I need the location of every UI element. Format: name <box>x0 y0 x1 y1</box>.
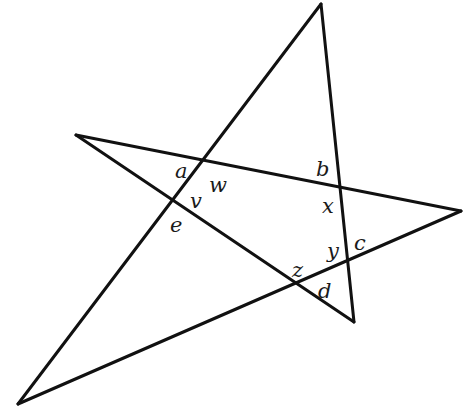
angle-label-c: c <box>354 231 366 255</box>
angle-label-y: y <box>326 239 340 263</box>
angle-label-w: w <box>209 173 227 197</box>
edge-bottom-left-to-top <box>18 4 321 404</box>
angle-label-e: e <box>170 213 182 237</box>
angle-label-x: x <box>322 194 334 218</box>
angle-label-b: b <box>316 157 329 181</box>
angle-label-d: d <box>318 279 331 303</box>
angle-label-a: a <box>175 159 188 183</box>
edge-right-to-bottom-left <box>18 211 461 404</box>
angle-label-v: v <box>190 189 202 213</box>
star-edges <box>18 4 461 404</box>
angle-labels: awbxveyczd <box>170 157 366 303</box>
angle-label-z: z <box>291 258 304 282</box>
pentagram-diagram: awbxveyczd <box>0 0 464 411</box>
